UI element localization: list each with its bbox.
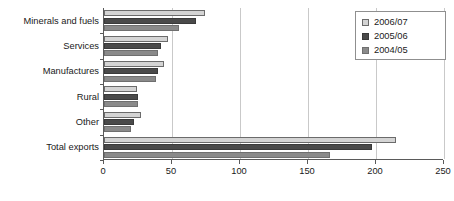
legend-item-2005-06[interactable]: 2005/06	[362, 30, 445, 43]
bar	[104, 101, 138, 107]
x-axis-tick	[443, 160, 444, 164]
legend: 2006/07 2005/06 2004/05	[355, 11, 446, 60]
bar	[104, 144, 372, 150]
y-axis-tick	[100, 33, 104, 34]
legend-item-2004-05[interactable]: 2004/05	[362, 44, 445, 57]
y-axis-tick	[100, 59, 104, 60]
legend-item-2006-07[interactable]: 2006/07	[362, 16, 445, 29]
bar-group	[104, 109, 443, 134]
legend-swatch-icon	[362, 47, 369, 54]
bar-group	[104, 135, 443, 160]
bar	[104, 61, 164, 67]
category-label: Services	[0, 41, 99, 51]
bar-chart: Minerals and fuelsServicesManufacturesRu…	[0, 0, 454, 201]
x-axis-label: 0	[100, 166, 105, 176]
bar	[104, 94, 138, 100]
category-label: Minerals and fuels	[0, 16, 99, 26]
bar	[104, 10, 205, 16]
x-axis-tick	[239, 160, 240, 164]
bar	[104, 152, 330, 158]
x-axis-tick	[171, 160, 172, 164]
bar	[104, 112, 141, 118]
bar	[104, 86, 137, 92]
bar	[104, 18, 196, 24]
legend-label: 2006/07	[374, 18, 408, 27]
x-axis-label: 250	[435, 166, 451, 176]
x-axis-label: 50	[166, 166, 176, 176]
category-label: Total exports	[0, 142, 99, 152]
bar-group	[104, 84, 443, 109]
x-axis-tick	[375, 160, 376, 164]
bar	[104, 119, 134, 125]
bar	[104, 25, 179, 31]
y-axis-tick	[100, 84, 104, 85]
legend-label: 2004/05	[374, 46, 408, 55]
bar	[104, 76, 156, 82]
bar-group	[104, 59, 443, 84]
legend-swatch-icon	[362, 33, 369, 40]
bar	[104, 43, 161, 49]
x-axis-label: 200	[367, 166, 383, 176]
bar	[104, 126, 131, 132]
x-axis-label: 150	[299, 166, 315, 176]
legend-swatch-icon	[362, 19, 369, 26]
bar	[104, 137, 396, 143]
x-axis-label: 100	[231, 166, 247, 176]
bar	[104, 36, 168, 42]
category-label: Other	[0, 117, 99, 127]
x-axis-tick	[103, 160, 104, 164]
y-axis-tick	[100, 135, 104, 136]
category-label: Rural	[0, 92, 99, 102]
category-label: Manufactures	[0, 66, 99, 76]
bar	[104, 68, 158, 74]
legend-label: 2005/06	[374, 32, 408, 41]
y-axis-tick	[100, 109, 104, 110]
bar	[104, 50, 158, 56]
x-axis-tick	[307, 160, 308, 164]
